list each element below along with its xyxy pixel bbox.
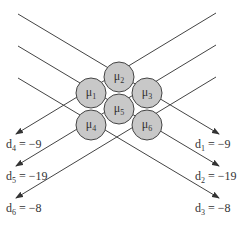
node-label-mu2: μ2 <box>104 69 134 85</box>
node-label-mu1: μ1 <box>76 85 106 101</box>
node-label-mu3: μ3 <box>132 85 162 101</box>
output-label-d1: d1 = −9 <box>195 137 231 153</box>
output-label-d5: d5 = −19 <box>6 169 48 185</box>
output-label-d2: d2 = −19 <box>195 169 237 185</box>
node-label-mu4: μ4 <box>76 117 106 133</box>
node-label-mu6: μ6 <box>132 117 162 133</box>
output-label-d4: d4 = −9 <box>6 137 42 153</box>
node-label-mu5: μ5 <box>104 101 134 117</box>
output-label-d6: d6 = −8 <box>6 201 42 217</box>
output-label-d3: d3 = −8 <box>195 201 231 217</box>
